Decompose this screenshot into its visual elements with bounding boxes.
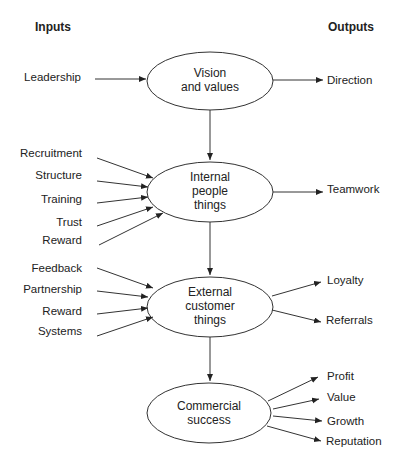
input-arrow-reward (99, 213, 163, 245)
input-label-trust: Trust (56, 216, 83, 228)
node-commercial: Commercial success (147, 383, 271, 443)
inputs-header: Inputs (35, 20, 71, 34)
node-external-line-1: External (188, 285, 232, 299)
node-vision: Vision and values (147, 52, 273, 110)
input-label-reward-2: Reward (42, 305, 82, 317)
node-vision-line-2: and values (181, 80, 239, 94)
output-arrow-profit (268, 377, 318, 401)
output-label-direction: Direction (327, 74, 372, 86)
node-external: External customer things (147, 277, 273, 337)
input-label-reward: Reward (42, 234, 82, 246)
input-label-systems: Systems (38, 325, 82, 337)
input-arrow-reward-2 (97, 308, 148, 314)
input-label-partnership: Partnership (23, 283, 82, 295)
input-arrow-systems (97, 317, 153, 336)
output-label-value: Value (327, 391, 356, 403)
input-label-feedback: Feedback (31, 262, 82, 274)
input-label-training: Training (41, 193, 82, 205)
output-arrow-loyalty (272, 282, 321, 296)
output-arrow-referrals (272, 310, 321, 322)
input-arrow-partnership (97, 291, 148, 297)
node-commercial-line-1: Commercial (177, 399, 241, 413)
input-label-recruitment: Recruitment (20, 147, 83, 159)
input-arrow-structure (97, 181, 148, 187)
output-label-teamwork: Teamwork (327, 183, 380, 195)
node-internal-line-1: Internal (190, 170, 230, 184)
input-label-structure: Structure (35, 169, 82, 181)
output-label-loyalty: Loyalty (327, 274, 364, 286)
output-arrow-growth (273, 416, 322, 421)
input-arrow-recruitment (97, 158, 153, 178)
output-arrow-reputation (267, 426, 321, 441)
input-arrow-trust (97, 207, 153, 226)
output-arrow-value (273, 399, 319, 409)
diagram-canvas: Inputs Outputs Vision and values Interna… (0, 0, 400, 466)
node-vision-line-1: Vision (194, 66, 226, 80)
node-external-line-3: things (194, 313, 226, 327)
output-label-profit: Profit (327, 370, 355, 382)
input-arrow-training (97, 197, 148, 203)
node-internal-line-2: people (192, 184, 228, 198)
input-arrow-feedback (97, 268, 153, 288)
output-label-growth: Growth (327, 415, 364, 427)
node-commercial-line-2: success (187, 413, 230, 427)
node-internal: Internal people things (147, 162, 273, 222)
input-label-leadership: Leadership (24, 71, 81, 83)
output-label-reputation: Reputation (326, 435, 382, 447)
output-label-referrals: Referrals (326, 314, 373, 326)
node-external-line-2: customer (185, 299, 234, 313)
node-internal-line-3: things (194, 198, 226, 212)
outputs-header: Outputs (328, 20, 374, 34)
